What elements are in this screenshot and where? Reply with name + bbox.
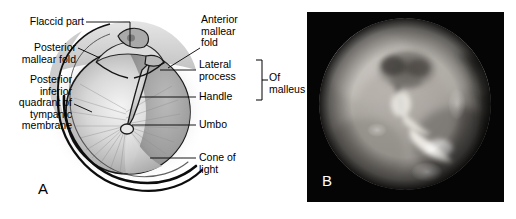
label-flaccid-part: Flaccid part bbox=[8, 16, 84, 28]
panel-letter-b: B bbox=[322, 172, 332, 189]
label-umbo: Umbo bbox=[199, 119, 255, 131]
label-anterior-mallear-fold: Anterior mallear fold bbox=[201, 14, 257, 49]
otoscopic-photo bbox=[307, 12, 504, 202]
of-malleus-bracket-shape bbox=[256, 60, 262, 100]
panel-letter-a: A bbox=[38, 180, 48, 197]
panel-b-photograph: B bbox=[307, 12, 504, 202]
label-cone-of-light: Cone of light bbox=[199, 152, 255, 175]
label-lateral-process: Lateral process bbox=[199, 59, 255, 82]
figure-tympanic-membrane: Flaccid part Posterior mallear fold Post… bbox=[0, 0, 516, 219]
label-posterior-mallear-fold: Posterior mallear fold bbox=[2, 42, 76, 65]
label-posterior-inferior-quadrant: Posterior inferior quadrant of tympanic … bbox=[0, 74, 72, 132]
umbo-point bbox=[121, 124, 134, 134]
panel-a-illustration: Flaccid part Posterior mallear fold Post… bbox=[0, 0, 290, 219]
photo-vignette bbox=[319, 18, 491, 190]
label-handle: Handle bbox=[199, 91, 255, 103]
malleus-head-shadow bbox=[127, 35, 135, 42]
